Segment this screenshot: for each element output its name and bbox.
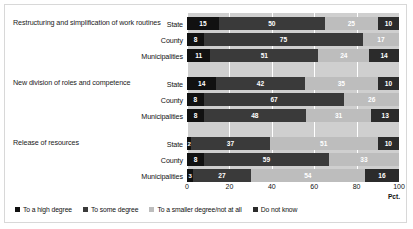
- legend-item[interactable]: To a smaller degree/not at all: [149, 206, 241, 213]
- bar-row: 85933: [187, 153, 399, 166]
- bar-segment: 31: [306, 109, 372, 122]
- legend-swatch-icon: [253, 207, 258, 212]
- bar-segment: 8: [187, 33, 204, 46]
- bar-segment: 15: [187, 17, 219, 30]
- plot-area: 1550251087517115124141442351086726848311…: [187, 13, 399, 181]
- bar-segment: 24: [318, 49, 369, 62]
- bar-row: 8483113: [187, 109, 399, 122]
- bar-segment: 25: [325, 17, 378, 30]
- bar-segment: 42: [216, 77, 304, 90]
- legend-label: To a high degree: [23, 206, 72, 213]
- bar-segment: 37: [191, 137, 269, 150]
- legend-swatch-icon: [149, 207, 154, 212]
- bar-row: 15502510: [187, 17, 399, 30]
- chart-frame: 1550251087517115124141442351086726848311…: [4, 4, 407, 223]
- legend-label: To some degree: [91, 206, 138, 213]
- row-category-label: Municipalities: [106, 172, 186, 182]
- bar-segment: 51: [270, 137, 378, 150]
- bar-segment: 54: [251, 169, 365, 182]
- bar-row: 3275416: [187, 169, 399, 182]
- bar-segment: 14: [369, 49, 399, 62]
- legend-swatch-icon: [83, 207, 88, 212]
- legend-label: To a smaller degree/not at all: [157, 206, 241, 213]
- legend-label: Do not know: [261, 206, 298, 213]
- x-axis-tick: 60: [310, 183, 318, 190]
- x-axis-tick: 100: [393, 183, 405, 190]
- legend-item[interactable]: To a high degree: [15, 206, 72, 213]
- bar-row: 2375110: [187, 137, 399, 150]
- bar-row: 86726: [187, 93, 399, 106]
- row-category-label: Municipalities: [106, 112, 186, 122]
- bar-segment: 10: [378, 17, 399, 30]
- bar-row: 11512414: [187, 49, 399, 62]
- bar-segment: 59: [204, 153, 329, 166]
- x-axis-unit-label: Pct.: [388, 193, 400, 200]
- bar-segment: 16: [365, 169, 399, 182]
- bar-segment: 10: [378, 77, 399, 90]
- bar-segment: 8: [187, 93, 204, 106]
- row-category-label: County: [106, 156, 186, 166]
- bar-segment: 13: [371, 109, 399, 122]
- bar-segment: 51: [210, 49, 318, 62]
- bar-segment: 17: [363, 33, 399, 46]
- bar-segment: 33: [329, 153, 399, 166]
- bar-segment: 14: [187, 77, 216, 90]
- x-axis-tick: 0: [185, 183, 189, 190]
- x-axis-tick: 80: [353, 183, 361, 190]
- bar-segment: 8: [187, 153, 204, 166]
- group-label: New division of roles and competence: [13, 78, 163, 87]
- bar-segment: 8: [187, 109, 204, 122]
- row-category-label: County: [106, 96, 186, 106]
- legend-item[interactable]: Do not know: [253, 206, 298, 213]
- group-label: Release of resources: [13, 138, 163, 147]
- bar-row: 14423510: [187, 77, 399, 90]
- legend-item[interactable]: To some degree: [83, 206, 138, 213]
- x-axis-tick: 20: [225, 183, 233, 190]
- bar-segment: 75: [204, 33, 363, 46]
- bar-segment: 35: [305, 77, 378, 90]
- group-label: Restructuring and simplification of work…: [13, 18, 163, 27]
- row-category-label: Municipalities: [106, 52, 186, 62]
- bar-segment: 27: [193, 169, 250, 182]
- legend-swatch-icon: [15, 207, 20, 212]
- bar-row: 87517: [187, 33, 399, 46]
- chart-legend: To a high degreeTo some degreeTo a small…: [15, 203, 400, 215]
- row-category-label: County: [106, 36, 186, 46]
- bar-segment: 67: [204, 93, 345, 106]
- stacked-bar-chart: 1550251087517115124141442351086726848311…: [5, 5, 406, 222]
- x-axis: 020406080100: [187, 183, 399, 193]
- bar-segment: 50: [219, 17, 325, 30]
- gridline: [399, 13, 400, 181]
- bar-segment: 26: [344, 93, 399, 106]
- bar-segment: 48: [204, 109, 306, 122]
- bar-segment: 10: [378, 137, 399, 150]
- x-axis-tick: 40: [268, 183, 276, 190]
- bar-segment: 11: [187, 49, 210, 62]
